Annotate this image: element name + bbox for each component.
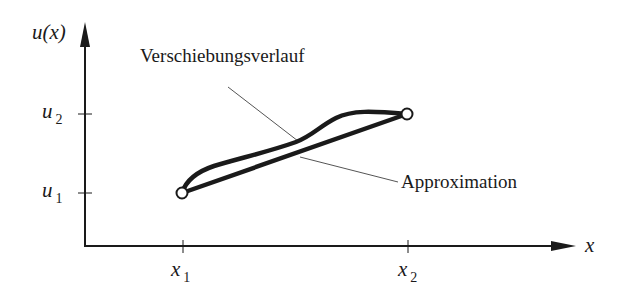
annotation-approximation: Approximation (401, 172, 517, 191)
tick-label-x2: x2 (398, 259, 417, 280)
tick-label-x1-subscript: 1 (183, 270, 190, 285)
tick-label-u2-symbol: u (42, 99, 53, 123)
x-axis-arrow-icon (551, 241, 576, 251)
tick-label-x2-symbol: x (398, 257, 407, 281)
y-axis-arrow-icon (80, 22, 90, 47)
tick-label-x1-symbol: x (171, 257, 180, 281)
tick-label-x1: x1 (171, 259, 190, 280)
annotation-displacement: Verschiebungsverlauf (140, 46, 305, 65)
tick-label-u1: u1 (42, 180, 63, 201)
y-axis-label: u(x) (32, 22, 66, 43)
tick-label-u2-subscript: 2 (56, 112, 63, 127)
leader-line-approximation (300, 157, 398, 182)
displacement-diagram: u(x) x u2 u1 x1 x2 Verschiebungsverlauf … (0, 0, 622, 300)
node-2-icon (402, 109, 413, 120)
leader-line-displacement (228, 87, 298, 141)
tick-label-x2-subscript: 2 (410, 270, 417, 285)
approximation-line (182, 114, 407, 193)
tick-label-u1-subscript: 1 (56, 191, 63, 206)
diagram-canvas (0, 0, 622, 300)
tick-label-u1-symbol: u (42, 178, 53, 202)
node-1-icon (177, 188, 188, 199)
x-axis-label: x (585, 235, 594, 256)
tick-label-u2: u2 (42, 101, 63, 122)
